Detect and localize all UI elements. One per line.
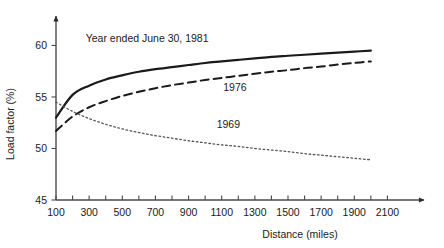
x-tick-label: 1700 xyxy=(309,206,333,218)
x-tick-label: 1100 xyxy=(210,206,233,218)
y-tick-label: 60 xyxy=(35,39,47,51)
y-tick-labels: 45505560 xyxy=(35,39,47,206)
x-tick-labels: 100300500700900110013001500170019002100 xyxy=(47,206,399,218)
x-tick-label: 1500 xyxy=(276,206,300,218)
series-label-0: Year ended June 30, 1981 xyxy=(86,32,209,44)
x-tick-label: 700 xyxy=(147,206,165,218)
x-tick-label: 1300 xyxy=(243,206,267,218)
series-label-1: 1976 xyxy=(223,81,247,93)
series-label-2: 1969 xyxy=(217,118,241,130)
y-tick-label: 55 xyxy=(35,91,47,103)
chart-container: 100300500700900110013001500170019002100 … xyxy=(0,0,444,248)
x-tick-label: 500 xyxy=(114,206,132,218)
series-line-2 xyxy=(56,102,371,160)
series-line-1 xyxy=(56,61,371,131)
series-line-0 xyxy=(56,51,371,118)
series-lines-group xyxy=(56,51,371,160)
line-chart: 100300500700900110013001500170019002100 … xyxy=(0,0,444,248)
x-tick-label: 100 xyxy=(47,206,65,218)
x-tick-label: 1900 xyxy=(343,206,367,218)
y-tick-label: 50 xyxy=(35,142,47,154)
x-tick-label: 300 xyxy=(80,206,98,218)
y-tick-label: 45 xyxy=(35,194,47,206)
series-annotations-group: Year ended June 30, 198119761969 xyxy=(86,32,247,130)
x-tick-label: 2100 xyxy=(376,206,400,218)
y-axis-title: Load factor (%) xyxy=(4,88,16,160)
x-axis-title: Distance (miles) xyxy=(262,228,337,240)
x-tick-label: 900 xyxy=(180,206,198,218)
